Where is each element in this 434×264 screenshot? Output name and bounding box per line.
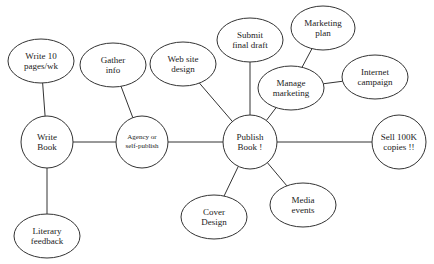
node-internet[interactable]: Internet campaign bbox=[346, 58, 404, 96]
node-managemkt[interactable]: Manage marketing bbox=[262, 69, 320, 107]
edge-write10-to-writebook bbox=[43, 83, 45, 116]
node-gather[interactable]: Gather info bbox=[84, 46, 142, 84]
node-submit[interactable]: Submit final draft bbox=[221, 21, 279, 59]
edge-website-to-publish bbox=[199, 83, 232, 121]
node-publish[interactable]: Publish Book ! bbox=[227, 118, 273, 166]
edge-publish-to-cover bbox=[224, 166, 238, 196]
edge-mktplan-to-managemkt bbox=[302, 49, 312, 68]
node-literary[interactable]: Literary feedback bbox=[18, 217, 76, 255]
node-writebook[interactable]: Write Book bbox=[25, 119, 69, 165]
node-write10[interactable]: Write 10 pages/wk bbox=[12, 42, 70, 80]
node-media[interactable]: Media events bbox=[274, 186, 332, 224]
edge-gather-to-agency bbox=[121, 86, 133, 117]
node-agency[interactable]: Agency or self-publish bbox=[120, 119, 164, 165]
node-website[interactable]: Web site design bbox=[154, 45, 212, 83]
edge-publish-to-media bbox=[267, 163, 286, 186]
node-mktplan[interactable]: Marketing plan bbox=[295, 9, 351, 47]
node-cover[interactable]: Cover Design bbox=[185, 198, 243, 236]
edge-managemkt-to-internet bbox=[323, 81, 342, 84]
node-sell[interactable]: Sell 100K copies !! bbox=[376, 118, 422, 166]
